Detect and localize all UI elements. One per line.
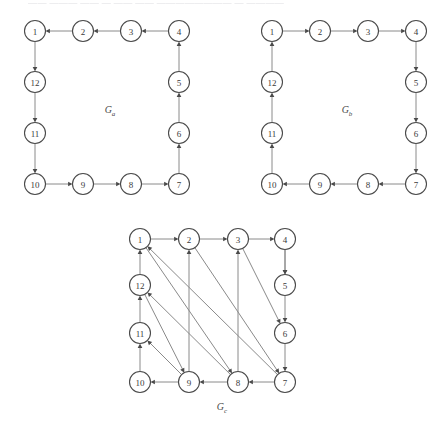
edge-2-to-1 [46,29,73,34]
node-label: 6 [177,129,182,139]
graph-node-11[interactable]: 11 [262,123,283,144]
graph-node-1[interactable]: 1 [25,21,46,42]
edge-7-to-8 [379,182,406,187]
graph-node-12[interactable]: 12 [262,72,283,93]
arrowhead [270,144,275,148]
arrowhead [164,182,168,187]
chord-edge-2-to-7 [195,248,279,374]
graph-node-3[interactable]: 3 [121,21,142,42]
arrowhead [401,29,405,34]
node-label: 7 [414,180,419,190]
edge-6-to-7 [414,144,419,174]
arrowhead [249,380,253,385]
graph-figure-Gc: 123456789101112Gc [118,222,328,427]
node-label: 7 [283,378,288,388]
arrowhead [223,237,227,242]
edge-11-to-12 [270,93,275,123]
graph-node-2[interactable]: 2 [179,229,200,250]
edge-7-to-6 [177,144,182,174]
edge-5-to-6 [283,296,288,323]
graph-node-6[interactable]: 6 [169,123,190,144]
cut-off-header-label: —— ——— —— — —— —— ———————— — ———— [28,0,284,7]
graph-node-8[interactable]: 8 [358,174,379,195]
node-label: 3 [129,27,134,37]
graph-node-8[interactable]: 8 [121,174,142,195]
node-label: 1 [138,235,143,245]
graph-node-1[interactable]: 1 [130,229,151,250]
arrowhead [283,270,288,274]
edge-2-to-3 [331,29,358,34]
graph-node-11[interactable]: 11 [130,323,151,344]
node-label: 11 [268,129,277,139]
node-label: 6 [283,329,288,339]
graph-node-10[interactable]: 10 [25,174,46,195]
graph-node-5[interactable]: 5 [169,72,190,93]
arrowhead [177,144,182,148]
node-label: 8 [129,180,134,190]
graph-node-12[interactable]: 12 [130,275,151,296]
graph-node-5[interactable]: 5 [406,72,427,93]
arrowhead [138,296,143,300]
node-label: 2 [318,27,323,37]
edge-4-to-5 [414,42,419,72]
arrowhead [142,29,146,34]
node-label: 5 [177,78,182,88]
graph-node-7[interactable]: 7 [275,372,296,393]
graph-node-9[interactable]: 9 [179,372,200,393]
graph-node-10[interactable]: 10 [262,174,283,195]
graph-node-11[interactable]: 11 [25,123,46,144]
node-label: 10 [136,378,146,388]
graph-node-5[interactable]: 5 [275,275,296,296]
arrowhead [414,169,419,173]
graph-node-6[interactable]: 6 [406,123,427,144]
arrowhead [331,182,335,187]
arrowhead [270,93,275,97]
graph-node-10[interactable]: 10 [130,372,151,393]
node-label: 8 [236,378,241,388]
node-label: 11 [31,129,40,139]
graph-node-2[interactable]: 2 [310,21,331,42]
edge-8-to-7 [142,182,169,187]
graph-node-8[interactable]: 8 [228,372,249,393]
arrowhead [414,118,419,122]
graph-node-3[interactable]: 3 [228,229,249,250]
arrowhead [177,93,182,97]
edge-3-to-4 [379,29,406,34]
node-label: 12 [268,78,277,88]
node-label: 3 [366,27,371,37]
graph-node-7[interactable]: 7 [406,174,427,195]
graph-node-9[interactable]: 9 [310,174,331,195]
figure-caption-Gc: Gc [217,401,228,415]
edge-4-to-3 [142,29,169,34]
graph-node-4[interactable]: 4 [406,21,427,42]
graph-node-4[interactable]: 4 [275,229,296,250]
node-label: 12 [136,281,145,291]
graph-node-3[interactable]: 3 [358,21,379,42]
arrowhead [270,42,275,46]
edge-8-to-9 [200,380,228,385]
node-label: 2 [187,235,192,245]
graph-node-6[interactable]: 6 [275,323,296,344]
graph-node-2[interactable]: 2 [73,21,94,42]
arrowhead [33,118,38,122]
graph-node-7[interactable]: 7 [169,174,190,195]
arrowhead [33,169,38,173]
arrowhead [68,182,72,187]
graph-node-4[interactable]: 4 [169,21,190,42]
arrowhead [283,318,288,322]
edge-9-to-10 [283,182,310,187]
arrowhead [236,250,241,254]
arrowhead [187,250,192,254]
chord-edge-8-to-3 [236,250,241,372]
node-label: 5 [414,78,419,88]
edge-8-to-9 [331,182,358,187]
chord-edge-7-to-1 [147,246,277,374]
edge-5-to-6 [414,93,419,123]
graph-node-12[interactable]: 12 [25,72,46,93]
graph-node-9[interactable]: 9 [73,174,94,195]
node-label: 10 [268,180,278,190]
edge-11-to-12 [138,296,143,323]
chord-edge-9-to-2 [187,250,192,372]
edge-3-to-2 [94,29,121,34]
graph-node-1[interactable]: 1 [262,21,283,42]
